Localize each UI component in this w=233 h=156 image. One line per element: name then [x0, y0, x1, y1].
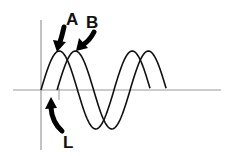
wave-phase-diagram: A B L	[0, 0, 233, 156]
arrow-l-icon	[45, 97, 62, 131]
label-a: A	[66, 10, 78, 29]
arrow-a-icon	[53, 27, 66, 52]
label-b: B	[86, 13, 98, 32]
arrow-b-icon	[76, 32, 94, 51]
label-l: L	[63, 133, 73, 152]
